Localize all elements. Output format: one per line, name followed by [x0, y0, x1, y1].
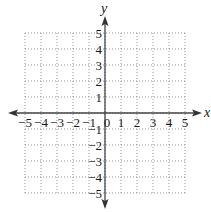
x-axis-label: x: [203, 105, 211, 120]
x-tick-labels: −5−4−3−2−1012345: [18, 115, 188, 130]
x-tick-label: 4: [166, 115, 173, 130]
y-tick-label: −4: [88, 170, 102, 185]
x-tick-label: 2: [134, 115, 141, 130]
y-tick-label: 2: [96, 74, 103, 89]
x-tick-label: 1: [118, 115, 125, 130]
x-tick-label: −3: [50, 115, 64, 130]
x-tick-label: 3: [150, 115, 157, 130]
axes: [8, 16, 202, 209]
y-tick-label: 5: [96, 26, 103, 41]
coordinate-plane: x y −5−4−3−2−1012345 −5−4−3−2−112345: [0, 0, 211, 212]
y-tick-label: 1: [96, 90, 103, 105]
y-tick-label: −3: [88, 154, 102, 169]
y-tick-label: 4: [96, 42, 103, 57]
x-tick-label: −5: [18, 115, 32, 130]
x-tick-label: 0: [104, 115, 111, 130]
x-tick-label: 5: [182, 115, 189, 130]
y-tick-label: −1: [88, 122, 102, 137]
x-tick-label: −4: [34, 115, 48, 130]
x-tick-label: −2: [66, 115, 80, 130]
y-tick-label: −2: [88, 138, 102, 153]
y-tick-label: 3: [96, 58, 103, 73]
y-tick-label: −5: [88, 186, 102, 201]
y-axis-label: y: [99, 1, 108, 16]
